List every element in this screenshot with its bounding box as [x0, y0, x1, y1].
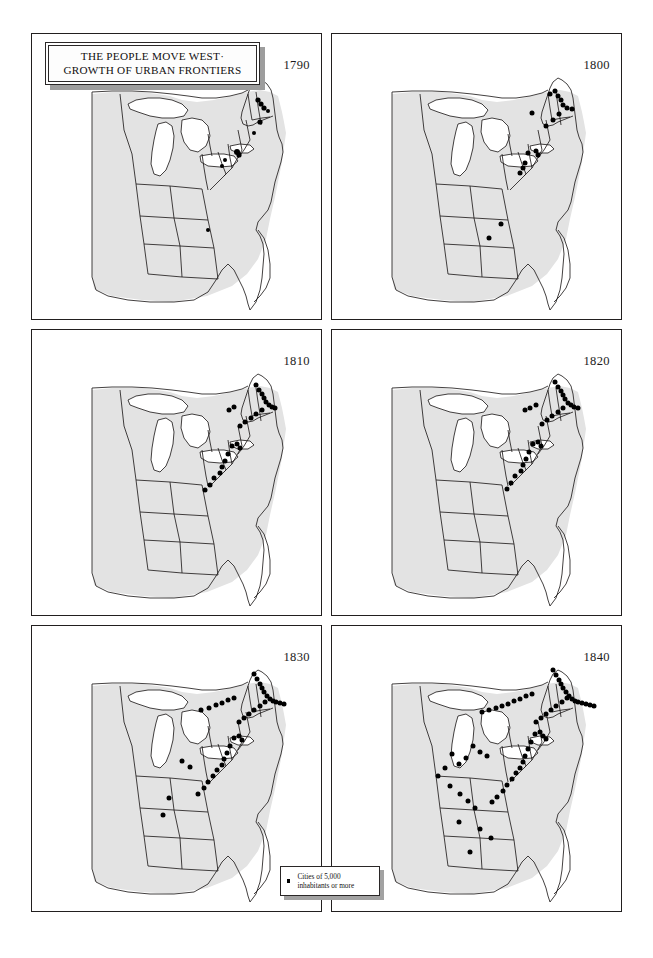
cartouche-inner-frame: THE PEOPLE MOVE WEST· GROWTH OF URBAN FR… [48, 45, 257, 82]
panel-year-label: 1830 [283, 650, 310, 665]
panel-year-label: 1790 [283, 58, 310, 73]
legend: Cities of 5,000 inhabitants or more [280, 866, 380, 896]
map-graphic-1800 [332, 34, 621, 319]
figure-title-line-1: THE PEOPLE MOVE WEST· [81, 50, 224, 64]
map-graphic-1830 [32, 626, 321, 911]
figure-title-line-2: GROWTH OF URBAN FRONTIERS [63, 64, 241, 78]
panel-year-label: 1820 [583, 354, 610, 369]
title-cartouche: THE PEOPLE MOVE WEST· GROWTH OF URBAN FR… [45, 42, 260, 85]
map-panel-1790[interactable]: THE PEOPLE MOVE WEST· GROWTH OF URBAN FR… [31, 33, 322, 320]
legend-box: Cities of 5,000 inhabitants or more [280, 866, 380, 896]
map-panel-1830[interactable]: 1830 [31, 625, 322, 912]
map-panel-1800[interactable]: 1800 [331, 33, 622, 320]
figure-plate: THE PEOPLE MOVE WEST· GROWTH OF URBAN FR… [31, 33, 622, 912]
city-dot-icon [287, 879, 290, 882]
panel-year-label: 1840 [583, 650, 610, 665]
panel-year-label: 1810 [283, 354, 310, 369]
map-graphic-1820 [332, 330, 621, 615]
legend-label-line-2: inhabitants or more [297, 881, 354, 890]
map-panel-1820[interactable]: 1820 [331, 329, 622, 616]
panel-year-label: 1800 [583, 58, 610, 73]
map-panel-1810[interactable]: 1810 [31, 329, 322, 616]
map-graphic-1810 [32, 330, 321, 615]
legend-label-line-1: Cities of 5,000 [297, 872, 354, 881]
